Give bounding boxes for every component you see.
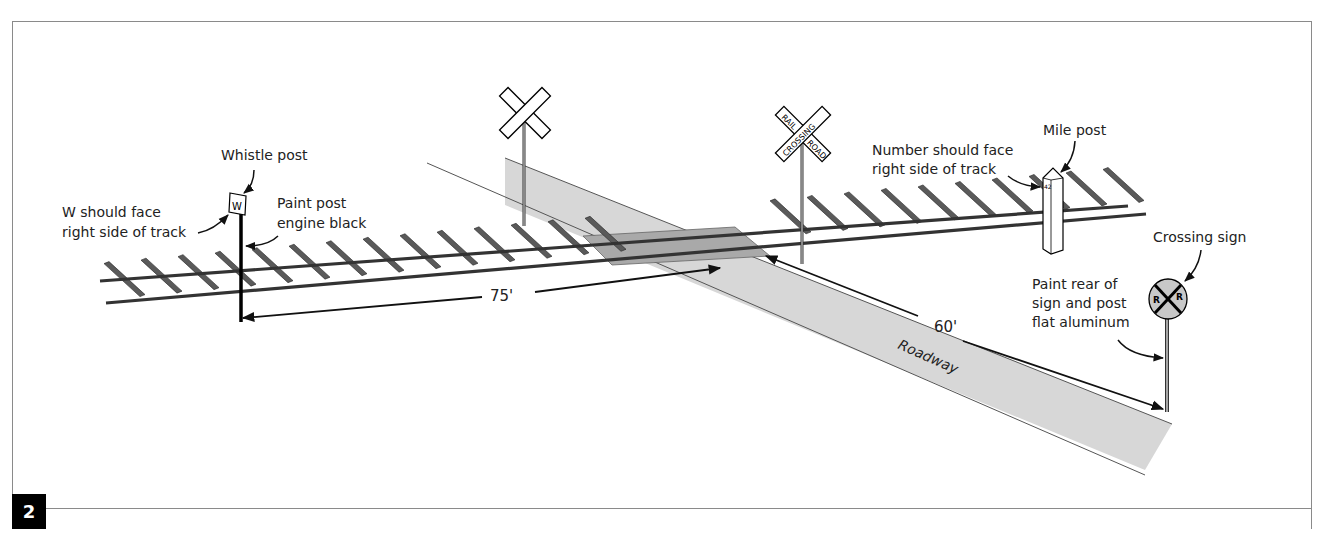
track-tie [992, 178, 1033, 213]
mile-post-number: 42 [1044, 183, 1052, 190]
track-tie [1066, 171, 1107, 206]
callout-paint-rear: Paint rear of sign and post flat aluminu… [1032, 276, 1163, 358]
whistle-post: W [229, 193, 246, 322]
whistle-post-letter: W [232, 201, 242, 212]
crossing-sign-label: Crossing sign [1153, 229, 1246, 245]
callout-mile-post: Mile post [1043, 122, 1107, 172]
track-tie [437, 230, 478, 265]
track-tie [918, 185, 959, 220]
callout-number-should-face: Number should face right side of track [872, 142, 1040, 187]
track-tie [289, 244, 330, 279]
paint-post-label-line2: engine black [277, 215, 367, 231]
advance-sign-letter-left: R [1153, 295, 1160, 305]
advance-crossing-sign: R R [1149, 279, 1187, 412]
track-tie [474, 227, 515, 262]
dimension-75ft: 75' [243, 268, 720, 318]
dimension-60ft-label: 60' [934, 318, 957, 336]
callout-paint-post: Paint post engine black [246, 195, 367, 246]
railroad-crossing-diagram: Roadway W RAIL ROAD CROSSING [0, 0, 1327, 537]
mile-post-label: Mile post [1043, 122, 1107, 138]
number-face-label-line2: right side of track [872, 161, 997, 177]
track-tie [400, 234, 441, 269]
track-tie [881, 188, 922, 223]
track-tie [511, 223, 552, 258]
whistle-post-label: Whistle post [221, 147, 308, 163]
callout-crossing-sign: Crossing sign [1153, 229, 1246, 281]
paint-rear-label-line2: sign and post [1032, 295, 1127, 311]
w-face-label-line1: W should face [62, 204, 161, 220]
paint-rear-label-line3: flat aluminum [1032, 314, 1130, 330]
w-face-label-line2: right side of track [62, 224, 187, 240]
callout-w-should-face: W should face right side of track [62, 204, 228, 240]
track-tie [955, 181, 996, 216]
callout-whistle-post: Whistle post [221, 147, 308, 193]
advance-sign-letter-right: R [1176, 292, 1183, 302]
mile-post: 42 [1043, 168, 1063, 254]
track-tie [1103, 167, 1144, 202]
track-tie [326, 241, 367, 276]
number-face-label-line1: Number should face [872, 142, 1013, 158]
track-tie [252, 248, 293, 283]
dimension-75ft-label: 75' [490, 287, 513, 305]
paint-rear-label-line1: Paint rear of [1032, 276, 1119, 292]
track-tie [844, 192, 885, 227]
paint-post-label-line1: Paint post [277, 195, 347, 211]
track-tie [363, 237, 404, 272]
track-tie [807, 195, 848, 230]
